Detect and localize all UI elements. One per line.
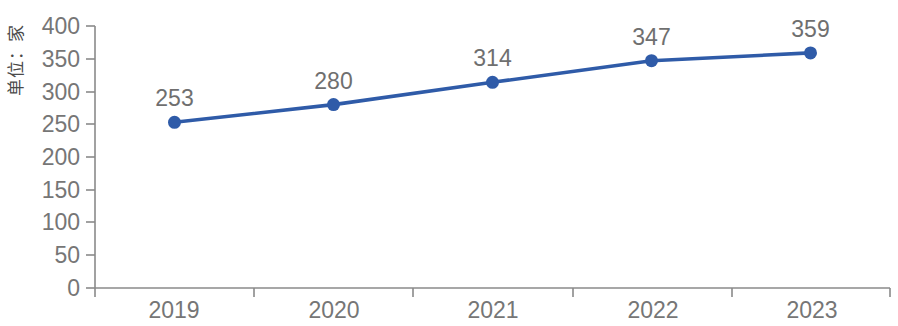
line-chart: 单位：家 400 350 300 250 200 150 100 50 [0,0,898,326]
x-tick-label-2021: 2021 [467,297,518,323]
data-label-2023: 359 [791,16,829,42]
data-label-2021: 314 [473,45,512,71]
data-point-2019 [168,116,181,129]
data-point-2020 [327,98,340,111]
data-label-2022: 347 [632,24,670,50]
y-axis-title: 单位：家 [7,24,26,96]
y-tick-label-0: 0 [67,275,80,301]
y-tick-label-400: 400 [42,13,80,39]
data-label-2019: 253 [155,85,193,111]
y-tick-label-250: 250 [42,111,80,137]
y-tick-label-350: 350 [42,46,80,72]
y-tick-label-150: 150 [42,177,80,203]
x-tick-label-2023: 2023 [786,297,837,323]
x-axis-ticks [95,288,890,297]
y-axis-tick-labels: 400 350 300 250 200 150 100 50 0 [42,13,80,301]
data-label-2020: 280 [314,68,352,94]
data-point-2021 [486,76,499,89]
x-tick-label-2019: 2019 [148,297,199,323]
y-axis-title-text: 单位：家 [7,24,26,96]
y-tick-label-300: 300 [42,79,80,105]
y-tick-label-100: 100 [42,209,80,235]
data-point-2023 [804,46,817,59]
data-point-labels: 253 280 314 347 359 [155,16,829,111]
x-tick-label-2020: 2020 [308,297,359,323]
chart-canvas: 单位：家 400 350 300 250 200 150 100 50 [0,0,898,326]
y-tick-label-50: 50 [54,242,80,268]
x-tick-label-2022: 2022 [627,297,678,323]
y-axis-ticks [86,26,95,288]
x-axis-tick-labels: 2019 2020 2021 2022 2023 [148,297,837,323]
data-point-2022 [645,54,658,67]
y-tick-label-200: 200 [42,144,80,170]
